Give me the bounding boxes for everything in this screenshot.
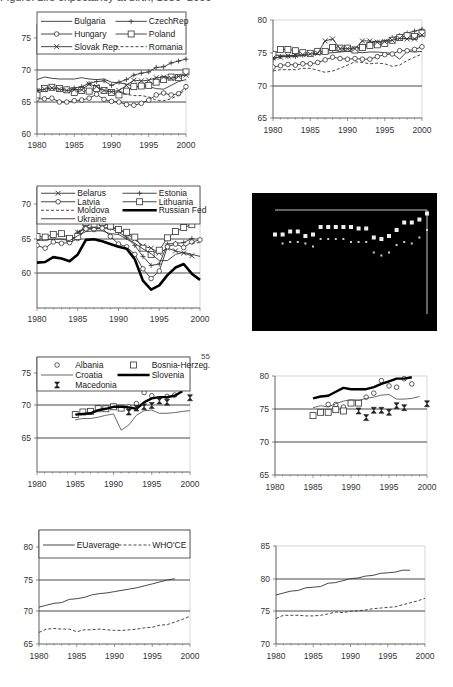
square-marker-icon bbox=[273, 233, 277, 237]
square-marker-icon bbox=[410, 221, 414, 225]
square-marker-icon bbox=[364, 227, 368, 231]
dot-marker-icon bbox=[342, 238, 344, 240]
square-marker-icon bbox=[379, 237, 383, 241]
square-marker-icon bbox=[296, 230, 300, 234]
square-marker-icon bbox=[341, 225, 345, 229]
square-marker-icon bbox=[349, 225, 353, 229]
dot-marker-icon bbox=[297, 241, 299, 243]
square-marker-icon bbox=[288, 230, 292, 234]
square-marker-icon bbox=[417, 218, 421, 222]
square-marker-icon bbox=[311, 233, 315, 237]
square-marker-icon bbox=[357, 227, 361, 231]
obscured-chart bbox=[273, 210, 429, 314]
chart-canvas-overlay bbox=[0, 0, 453, 687]
dot-marker-icon bbox=[388, 252, 390, 254]
square-marker-icon bbox=[334, 225, 338, 229]
square-marker-icon bbox=[395, 228, 399, 232]
dot-marker-icon bbox=[403, 241, 405, 243]
dot-marker-icon bbox=[289, 241, 291, 243]
square-marker-icon bbox=[402, 221, 406, 225]
square-marker-icon bbox=[303, 234, 307, 238]
square-marker-icon bbox=[281, 233, 285, 237]
dot-marker-icon bbox=[304, 243, 306, 245]
square-marker-icon bbox=[319, 225, 323, 229]
dot-marker-icon bbox=[335, 238, 337, 240]
dot-marker-icon bbox=[426, 229, 428, 231]
dot-marker-icon bbox=[312, 246, 314, 248]
square-marker-icon bbox=[425, 212, 429, 216]
dot-marker-icon bbox=[411, 243, 413, 245]
dot-marker-icon bbox=[327, 238, 329, 240]
dot-marker-icon bbox=[380, 255, 382, 257]
dot-marker-icon bbox=[418, 237, 420, 239]
square-marker-icon bbox=[387, 234, 391, 238]
square-marker-icon bbox=[326, 225, 330, 229]
dot-marker-icon bbox=[282, 243, 284, 245]
dot-marker-icon bbox=[373, 252, 375, 254]
dot-marker-icon bbox=[350, 241, 352, 243]
dot-marker-icon bbox=[358, 241, 360, 243]
dot-marker-icon bbox=[320, 238, 322, 240]
dot-marker-icon bbox=[365, 241, 367, 243]
square-marker-icon bbox=[372, 236, 376, 240]
dot-marker-icon bbox=[396, 244, 398, 246]
